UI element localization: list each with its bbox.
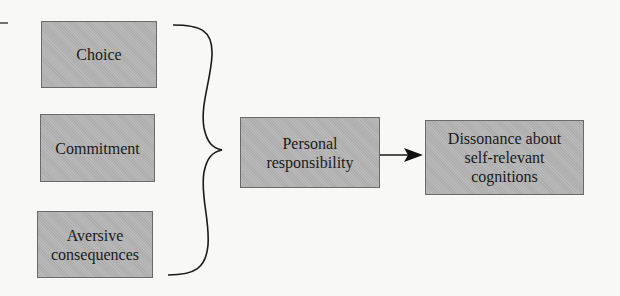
box-personal-responsibility-label: Personal responsibility — [266, 134, 353, 172]
box-commitment-label: Commitment — [55, 139, 139, 158]
box-dissonance: Dissonance about self-relevant cognition… — [425, 120, 584, 195]
box-choice: Choice — [41, 21, 157, 88]
diagram-canvas: Choice Commitment Aversive consequences … — [0, 0, 620, 296]
box-personal-responsibility: Personal responsibility — [240, 117, 380, 188]
box-aversive-consequences: Aversive consequences — [37, 211, 153, 278]
box-choice-label: Choice — [76, 45, 121, 64]
box-dissonance-label: Dissonance about self-relevant cognition… — [448, 129, 561, 186]
box-aversive-consequences-label: Aversive consequences — [51, 226, 139, 264]
brace-connector — [168, 25, 222, 275]
box-commitment: Commitment — [40, 114, 155, 182]
